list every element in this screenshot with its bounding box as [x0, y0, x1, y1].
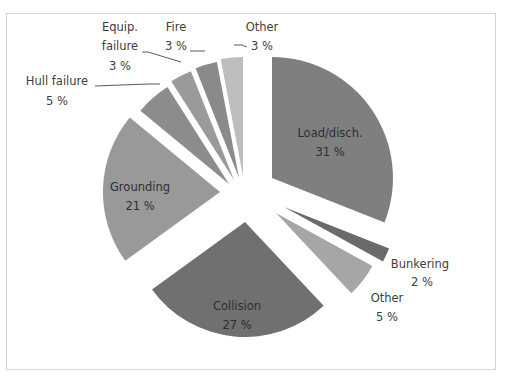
label-load-pct: 31 %: [315, 145, 344, 159]
label-other-right-name: Other: [371, 291, 404, 305]
pie-slices: [103, 57, 393, 337]
label-load-name: Load/disch.: [297, 126, 362, 140]
pie-chart: Load/disch. 31 % Collision 27 % Groundin…: [0, 0, 510, 377]
label-bunkering-pct: 2 %: [411, 275, 433, 289]
label-equip-pct: 3 %: [109, 59, 131, 73]
leader-line-other-top: [234, 45, 247, 47]
label-hull-name: Hull failure: [26, 74, 88, 88]
label-collision-name: Collision: [213, 299, 261, 313]
label-grounding-name: Grounding: [110, 180, 170, 194]
label-fire-pct: 3 %: [165, 39, 187, 53]
label-fire-name: Fire: [166, 20, 187, 34]
label-other-right-pct: 5 %: [376, 310, 398, 324]
label-equip-name-line2: failure: [102, 39, 138, 53]
label-hull-pct: 5 %: [46, 94, 68, 108]
label-collision-pct: 27 %: [222, 318, 251, 332]
leader-line-equip: [142, 52, 181, 62]
label-bunkering-name: Bunkering: [391, 257, 449, 271]
label-other-top-pct: 3 %: [251, 39, 273, 53]
leader-line-hull: [95, 84, 160, 86]
label-grounding-pct: 21 %: [125, 199, 154, 213]
label-equip-name-line1: Equip.: [102, 20, 138, 34]
label-other-top-name: Other: [246, 20, 279, 34]
